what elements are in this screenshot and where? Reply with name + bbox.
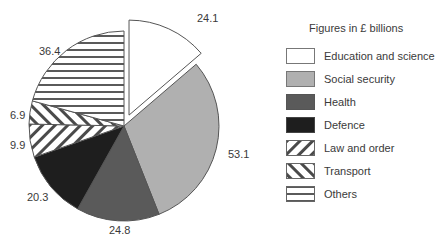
legend-label: Others	[324, 188, 357, 200]
legend-swatch-light-gray	[286, 71, 315, 87]
legend-label: Transport	[324, 165, 371, 177]
value-label-others: 36.4	[39, 45, 60, 57]
legend-label: Education and science	[324, 50, 435, 62]
legend-swatch-black	[286, 117, 315, 133]
legend-swatch-back-hatch	[286, 163, 315, 179]
legend-item-education: Education and science	[286, 48, 435, 64]
value-label-defence: 20.3	[27, 191, 48, 203]
legend-swatch-forward-hatch	[286, 140, 315, 156]
legend-swatch-white	[286, 48, 315, 64]
legend-item-defence: Defence	[286, 117, 365, 133]
legend-item-transport: Transport	[286, 163, 371, 179]
value-label-health: 24.8	[109, 224, 130, 236]
value-label-transport: 6.9	[10, 109, 25, 121]
value-label-law-and-order: 9.9	[10, 139, 25, 151]
pie-chart	[0, 0, 438, 239]
legend-item-law-and-order: Law and order	[286, 140, 394, 156]
value-label-social-security: 53.1	[228, 148, 249, 160]
legend-item-health: Health	[286, 94, 356, 110]
value-label-education: 24.1	[197, 12, 218, 24]
legend-item-others: Others	[286, 186, 357, 202]
legend-label: Social security	[324, 73, 395, 85]
legend-label: Defence	[324, 119, 365, 131]
legend-label: Law and order	[324, 142, 394, 154]
legend-swatch-dark-gray	[286, 94, 315, 110]
legend-label: Health	[324, 96, 356, 108]
legend-item-social-security: Social security	[286, 71, 395, 87]
legend-title: Figures in £ billions	[309, 22, 403, 34]
legend-swatch-horizontal-hatch	[286, 186, 315, 202]
